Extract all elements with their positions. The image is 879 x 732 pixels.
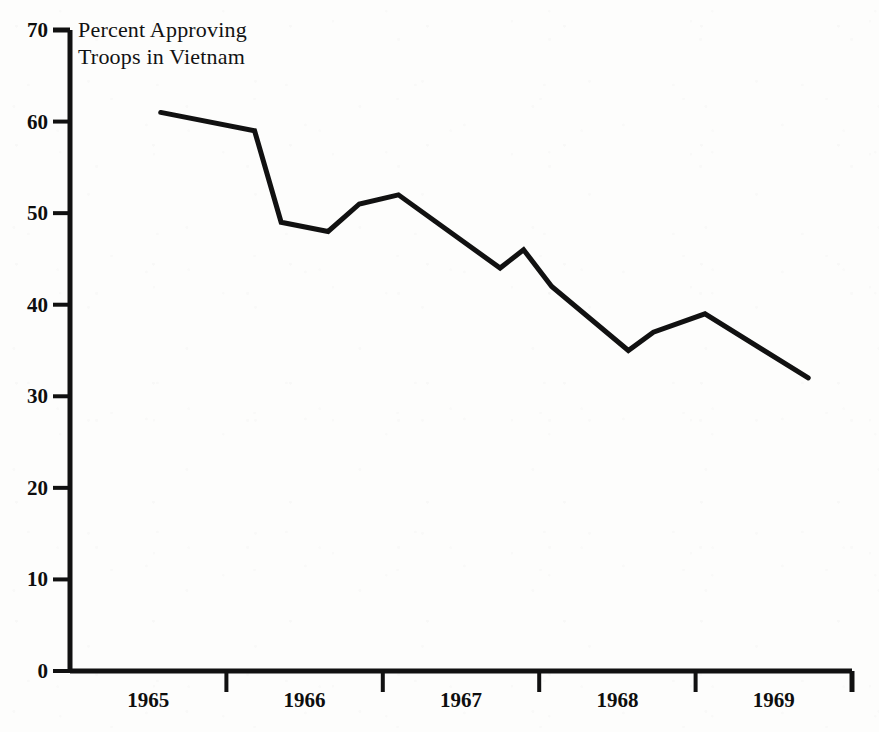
y-axis-tick-label: 60 <box>0 109 48 134</box>
y-axis-tick-label: 70 <box>0 18 48 43</box>
chart-title-line-2: Troops in Vietnam <box>78 44 247 71</box>
y-axis-tick-label: 0 <box>0 659 48 684</box>
x-axis-tick-label: 1968 <box>596 688 638 713</box>
x-axis-tick-label: 1967 <box>440 688 482 713</box>
x-axis-tick-label: 1969 <box>753 688 795 713</box>
x-axis-tick-label: 1965 <box>127 688 169 713</box>
chart-container: Percent Approving Troops in Vietnam 0102… <box>0 0 879 732</box>
y-axis-tick-label: 30 <box>0 384 48 409</box>
y-axis-tick-label: 20 <box>0 475 48 500</box>
chart-title-line-1: Percent Approving <box>78 17 247 44</box>
y-axis-tick-label: 10 <box>0 567 48 592</box>
y-axis-tick-label: 40 <box>0 292 48 317</box>
chart-title: Percent Approving Troops in Vietnam <box>78 17 247 71</box>
approval-trend-line <box>161 112 809 378</box>
x-axis-tick-label: 1966 <box>284 688 326 713</box>
y-axis-tick-label: 50 <box>0 201 48 226</box>
y-axis-ticks <box>53 30 70 671</box>
chart-plot-area <box>0 0 879 732</box>
